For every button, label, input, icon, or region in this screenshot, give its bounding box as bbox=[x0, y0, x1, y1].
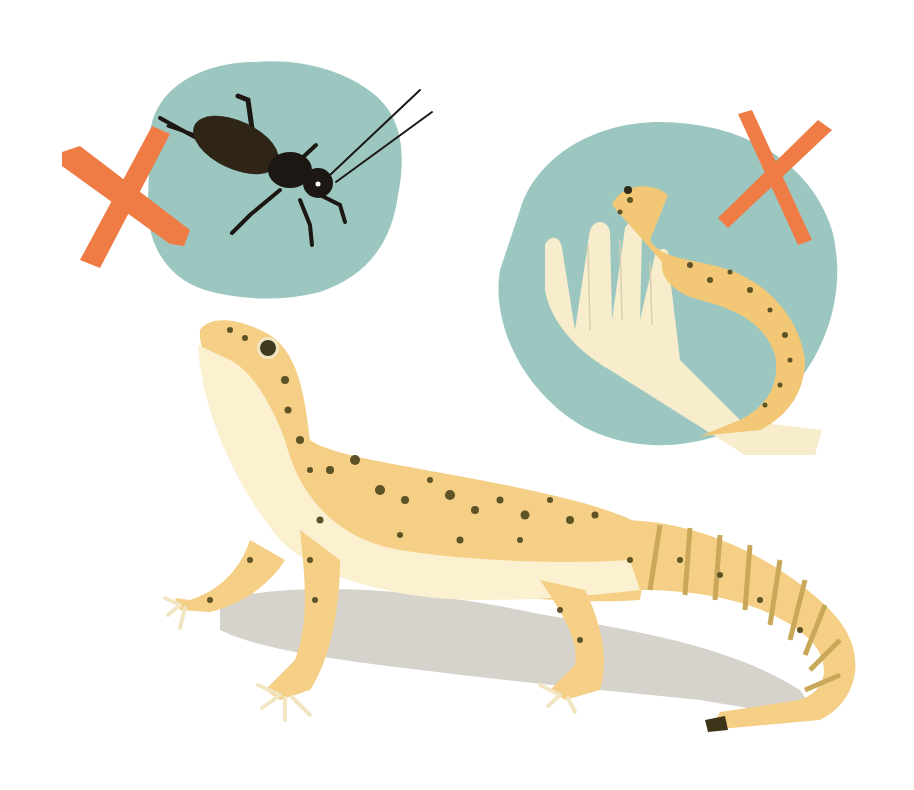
illustration-canvas bbox=[0, 0, 914, 790]
tail-tip bbox=[705, 716, 728, 732]
cricket-eye bbox=[316, 182, 321, 187]
gecko-pupil bbox=[260, 340, 276, 356]
hand-panel bbox=[498, 110, 837, 455]
small-gecko-eye bbox=[624, 186, 632, 194]
cricket-panel bbox=[62, 61, 432, 298]
